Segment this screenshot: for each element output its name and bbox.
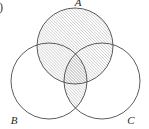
venn-diagram-figure: A B C ) [0, 0, 149, 129]
set-label-b: B [11, 114, 18, 126]
set-label-a: A [74, 0, 82, 8]
set-label-c: C [127, 114, 135, 126]
enumeration-marker: ) [0, 0, 3, 14]
venn-diagram-canvas: A B C ) [0, 0, 149, 129]
